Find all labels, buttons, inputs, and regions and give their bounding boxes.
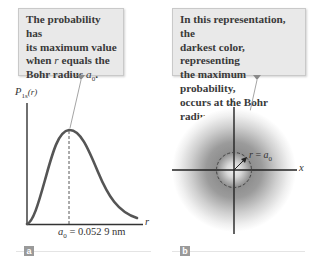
x-axis-label-b: x: [299, 162, 304, 173]
radius-label: r = a0: [249, 149, 272, 163]
panel-a-divider: [16, 251, 151, 252]
callout-a-leader-line: [70, 80, 81, 128]
panel-b-tag: b: [180, 246, 190, 256]
panel-b-divider: [172, 251, 305, 252]
probability-curve: [27, 130, 137, 224]
y-axis-label-b: y: [230, 94, 234, 105]
figure-canvas: [0, 0, 323, 269]
panel-a-tag: a: [24, 246, 34, 256]
x-axis-label: r: [145, 216, 149, 227]
y-axis-label: P1s(r): [15, 86, 37, 100]
bohr-radius-value-label: a0 = 0.052 9 nm: [58, 226, 125, 240]
